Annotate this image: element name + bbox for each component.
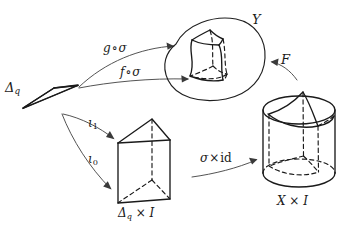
homotopy-F-label: F [281, 53, 290, 66]
f-compose-sigma-arg: σ [132, 65, 140, 79]
prism-shape [118, 119, 170, 203]
simplex-label-sub: q [14, 86, 20, 96]
iota-zero-arrow-shape [62, 114, 112, 189]
prism-label-main: Δ [118, 206, 127, 220]
diagram-canvas: Δq g∘σ f∘σ Y F ι1 ι0 σ×id Δq × I X × I [0, 0, 354, 232]
prism-label: Δq × I [118, 207, 154, 220]
space-Y-label: Y [252, 13, 261, 26]
compose-operator-icon: ∘ [111, 41, 119, 55]
prism-label-rest: × I [132, 206, 154, 220]
iota-zero-sub: 0 [93, 157, 98, 167]
sigma-cross-id-identity: id [220, 151, 232, 165]
cylinder-shape [263, 92, 335, 187]
space-Y-blob-shape [165, 18, 265, 101]
iota-one-sub: 1 [93, 121, 98, 131]
sigma-cross-id-label: σ×id [200, 152, 232, 164]
g-compose-sigma-fn: g [103, 41, 111, 55]
cylinder-label: X × I [277, 195, 308, 207]
g-compose-sigma-label: g∘σ [103, 42, 127, 54]
simplex-label: Δq [5, 81, 20, 96]
g-compose-sigma-arg: σ [119, 41, 127, 55]
iota-zero-label: ι0 [88, 153, 98, 166]
f-compose-sigma-label: f∘σ [120, 66, 141, 78]
times-operator-icon: × [208, 151, 220, 165]
simplex-triangle-shape [23, 85, 78, 109]
curved-prism-in-Y-shape [190, 30, 227, 81]
sigma-cross-id-main: σ [200, 151, 208, 165]
simplex-label-main: Δ [5, 80, 14, 95]
iota-one-label: ι1 [88, 117, 98, 130]
